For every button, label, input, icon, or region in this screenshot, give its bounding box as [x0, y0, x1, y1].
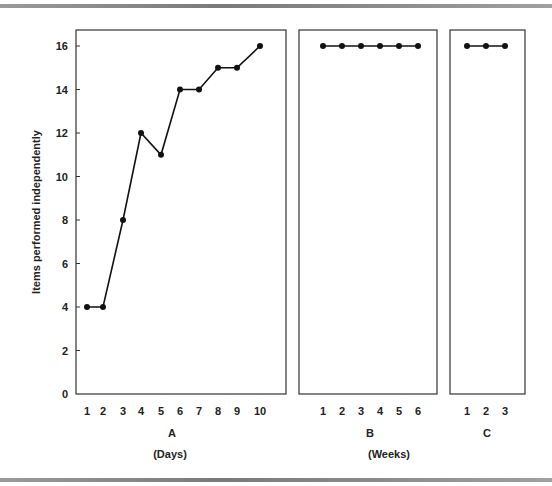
data-point	[502, 43, 508, 49]
x-tick-label: 6	[177, 405, 183, 417]
weeks-label: (Weeks)	[368, 448, 410, 460]
x-tick-label: 2	[100, 405, 106, 417]
x-tick-label: 9	[234, 405, 240, 417]
data-point	[120, 217, 126, 223]
y-tick-label: 16	[56, 40, 68, 52]
data-point	[377, 43, 383, 49]
x-tick-label: 8	[215, 405, 221, 417]
panel-frames	[76, 30, 525, 394]
data-point	[158, 152, 164, 158]
days-label: (Days)	[153, 448, 187, 460]
data-point	[84, 304, 90, 310]
y-tick-label: 2	[62, 345, 68, 357]
data-point	[234, 65, 240, 71]
y-tick-label: 8	[62, 214, 68, 226]
y-tick-label: 14	[56, 84, 69, 96]
panel-c-frame	[450, 30, 525, 394]
data-point	[483, 43, 489, 49]
x-axis: 12345678910123456123	[84, 405, 508, 417]
panel-a-line	[87, 46, 260, 307]
x-tick-label: 10	[254, 405, 266, 417]
data-point	[358, 43, 364, 49]
x-tick-label: 4	[377, 405, 384, 417]
y-tick-label: 12	[56, 127, 68, 139]
x-tick-label: 4	[138, 405, 145, 417]
x-tick-label: 1	[464, 405, 470, 417]
panel-b-label: B	[366, 427, 374, 439]
x-tick-label: 6	[415, 405, 421, 417]
x-tick-label: 5	[396, 405, 402, 417]
panel-a-label: A	[168, 427, 176, 439]
x-tick-label: 5	[158, 405, 164, 417]
y-tick-label: 4	[62, 301, 69, 313]
data-point	[396, 43, 402, 49]
y-tick-label: 10	[56, 171, 68, 183]
data-point	[415, 43, 421, 49]
panel-a-frame	[76, 30, 286, 394]
x-tick-label: 3	[502, 405, 508, 417]
x-tick-label: 1	[84, 405, 90, 417]
data-point	[257, 43, 263, 49]
y-tick-label: 6	[62, 258, 68, 270]
x-tick-label: 7	[196, 405, 202, 417]
x-tick-label: 1	[320, 405, 326, 417]
data-point	[464, 43, 470, 49]
data-point	[177, 87, 183, 93]
data-point	[320, 43, 326, 49]
data-point	[196, 87, 202, 93]
data-point	[215, 65, 221, 71]
data-point	[100, 304, 106, 310]
data-point	[339, 43, 345, 49]
data-point	[138, 130, 144, 136]
panel-b-frame	[299, 30, 437, 394]
x-tick-label: 3	[120, 405, 126, 417]
x-tick-label: 3	[358, 405, 364, 417]
chart: 0246810121416 12345678910123456123 Items…	[0, 0, 552, 486]
panel-c-label: C	[483, 427, 491, 439]
y-axis-label: Items performed independently	[30, 129, 42, 294]
data-series	[84, 43, 508, 310]
x-tick-label: 2	[483, 405, 489, 417]
x-tick-label: 2	[339, 405, 345, 417]
y-tick-label: 0	[62, 388, 68, 400]
